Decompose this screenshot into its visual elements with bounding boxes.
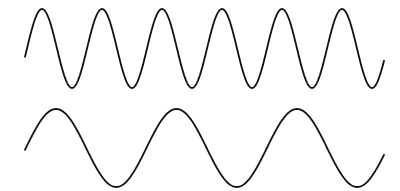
wave-diagram xyxy=(0,0,400,191)
high-frequency-wave xyxy=(25,9,384,88)
low-frequency-wave xyxy=(25,109,384,187)
